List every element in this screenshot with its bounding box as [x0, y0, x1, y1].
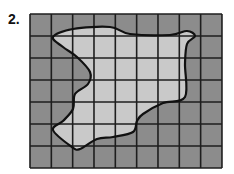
grid-area-figure — [0, 0, 234, 174]
